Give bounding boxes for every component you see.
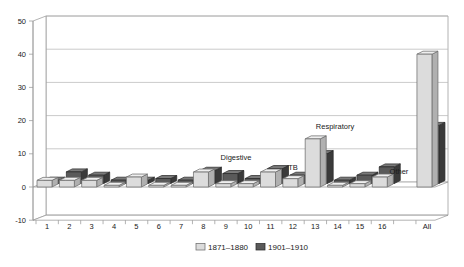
- bar-1871-1880-cat-16-front: [372, 177, 387, 187]
- y-axis-label-40: 40: [18, 50, 26, 59]
- floor: [33, 215, 448, 220]
- x-axis-label-13: 13: [311, 222, 319, 231]
- bar-1901-1910-cat-13-side: [327, 151, 333, 184]
- x-axis-label-12: 12: [289, 222, 297, 231]
- bar-1871-1880-cat-11-front: [261, 172, 276, 187]
- y-axis-label-10: 10: [18, 149, 26, 158]
- bar-1871-1880-cat-1-front: [37, 180, 52, 187]
- bar-1871-1880-cat-13-front: [305, 139, 320, 187]
- legend-label-1871-1880: 1871–1880: [208, 243, 249, 252]
- bar-1871-1880-cat-8-front: [193, 172, 208, 187]
- legend-swatch-1901-1910: [256, 244, 265, 251]
- bar-1871-1880-cat-12-front: [283, 179, 298, 187]
- x-axis-label-4: 4: [112, 222, 116, 231]
- annotation-other: Other: [390, 167, 409, 176]
- chart-page: 50403020100-1012345678910111213141516All…: [0, 0, 464, 267]
- bar-1871-1880-cat-2-front: [59, 180, 74, 187]
- x-axis-label-14: 14: [333, 222, 341, 231]
- x-axis-label-10: 10: [244, 222, 252, 231]
- x-axis-label-1: 1: [45, 222, 49, 231]
- x-axis-label-9: 9: [224, 222, 228, 231]
- bar-1871-1880-cat-13-side: [320, 136, 326, 187]
- x-axis-label-6: 6: [157, 222, 161, 231]
- bar-1871-1880-cat-6-front: [149, 185, 164, 187]
- annotation-digestive: Digestive: [221, 153, 252, 162]
- bar-1871-1880-cat-14-front: [328, 185, 343, 187]
- x-axis-label-15: 15: [356, 222, 364, 231]
- bar-1871-1880-cat-15-front: [350, 184, 365, 187]
- legend-label-1901-1910: 1901–1910: [268, 243, 309, 252]
- bar-1871-1880-cat-All-front: [417, 54, 432, 187]
- bar-1871-1880-cat-10-front: [238, 184, 253, 187]
- annotation-respiratory: Respiratory: [316, 122, 355, 131]
- y-axis-label-50: 50: [18, 17, 26, 26]
- x-axis-label-2: 2: [67, 222, 71, 231]
- bar-1871-1880-cat-3-front: [82, 180, 97, 187]
- bar-chart-3d: 50403020100-1012345678910111213141516All…: [0, 0, 464, 267]
- left-wall: [33, 16, 46, 220]
- x-axis-label-16: 16: [378, 222, 386, 231]
- x-axis-label-8: 8: [201, 222, 205, 231]
- y-axis-label-20: 20: [18, 116, 26, 125]
- x-axis-label-All: All: [423, 222, 432, 231]
- bar-1871-1880-cat-5-front: [126, 177, 141, 187]
- bar-1871-1880-cat-7-front: [171, 185, 186, 187]
- bar-1871-1880-cat-9-front: [216, 184, 231, 187]
- x-axis-label-5: 5: [134, 222, 138, 231]
- y-axis-label--10: -10: [15, 216, 26, 225]
- annotation-tb: TB: [288, 163, 298, 172]
- legend-swatch-1871-1880: [196, 244, 205, 251]
- x-axis-label-3: 3: [90, 222, 94, 231]
- y-axis-label-0: 0: [22, 183, 26, 192]
- bar-1871-1880-cat-4-front: [104, 185, 119, 187]
- x-axis-label-7: 7: [179, 222, 183, 231]
- bar-1871-1880-cat-All-side: [432, 51, 438, 187]
- x-axis-label-11: 11: [267, 222, 275, 231]
- y-axis-label-30: 30: [18, 83, 26, 92]
- bar-1901-1910-cat-All-side: [439, 122, 445, 183]
